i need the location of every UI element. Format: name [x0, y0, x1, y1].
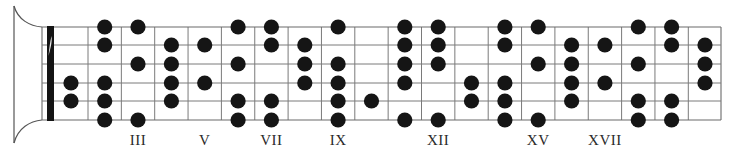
- position-marker-labels: IIIVVIIIXXIIXVXVII: [130, 132, 622, 148]
- scale-note-dot: [331, 75, 346, 90]
- scale-note-dot: [264, 19, 279, 34]
- scale-note-dot: [231, 56, 246, 71]
- scale-note-dot: [431, 112, 446, 127]
- scale-note-dot: [164, 37, 179, 52]
- scale-note-dot: [264, 93, 279, 108]
- scale-note-dot: [431, 37, 446, 52]
- scale-note-dot: [264, 37, 279, 52]
- scale-note-dot: [97, 19, 112, 34]
- fretboard-diagram: IIIVVIIIXXIIXVXVII: [0, 0, 735, 154]
- scale-note-dot: [531, 112, 546, 127]
- scale-note-dot: [564, 75, 579, 90]
- scale-note-dot: [664, 112, 679, 127]
- scale-note-dot: [397, 56, 412, 71]
- scale-note-dot: [130, 19, 145, 34]
- fret-position-label: XV: [527, 132, 550, 148]
- scale-note-dot: [697, 56, 712, 71]
- scale-note-dot: [63, 75, 78, 90]
- scale-note-dot: [331, 112, 346, 127]
- scale-note-dot: [164, 75, 179, 90]
- scale-note-dot: [97, 75, 112, 90]
- scale-note-dot: [497, 37, 512, 52]
- scale-note-dot: [331, 56, 346, 71]
- scale-note-dot: [231, 19, 246, 34]
- scale-note-dot: [497, 112, 512, 127]
- scale-note-dot: [597, 75, 612, 90]
- fret-position-label: V: [199, 132, 210, 148]
- scale-note-dot: [664, 93, 679, 108]
- scale-note-dot: [431, 56, 446, 71]
- scale-note-dot: [397, 75, 412, 90]
- scale-note-dot: [97, 37, 112, 52]
- scale-note-dot: [264, 112, 279, 127]
- scale-note-dot: [664, 19, 679, 34]
- scale-note-dot: [63, 93, 78, 108]
- fret-lines: [42, 27, 721, 120]
- scale-note-dot: [297, 56, 312, 71]
- scale-note-dot: [397, 37, 412, 52]
- scale-note-dot: [231, 112, 246, 127]
- scale-note-dot: [97, 112, 112, 127]
- scale-note-dot: [597, 37, 612, 52]
- scale-note-dot: [97, 93, 112, 108]
- scale-note-dot: [631, 93, 646, 108]
- fret-position-label: XII: [427, 132, 449, 148]
- fret-position-label: IX: [330, 132, 347, 148]
- headstock-top-curve: [14, 6, 42, 27]
- scale-note-dot: [297, 75, 312, 90]
- scale-note-dot: [464, 93, 479, 108]
- scale-note-dot: [531, 19, 546, 34]
- scale-note-dot: [564, 37, 579, 52]
- scale-note-dot: [130, 56, 145, 71]
- scale-note-dot: [297, 37, 312, 52]
- scale-note-dot: [130, 112, 145, 127]
- scale-note-dot: [231, 93, 246, 108]
- headstock-outline: [14, 6, 42, 143]
- scale-note-dot: [397, 112, 412, 127]
- scale-note-dot: [631, 56, 646, 71]
- scale-note-dot: [331, 19, 346, 34]
- scale-note-dot: [664, 37, 679, 52]
- fret-position-label: XVII: [588, 132, 622, 148]
- nut: [47, 26, 54, 121]
- fret-position-label: III: [130, 132, 147, 148]
- scale-note-dot: [164, 56, 179, 71]
- scale-note-dot: [331, 93, 346, 108]
- scale-note-dot: [464, 75, 479, 90]
- headstock-bottom-curve: [14, 120, 42, 143]
- scale-note-dot: [564, 56, 579, 71]
- scale-note-dot: [531, 56, 546, 71]
- scale-note-dot: [631, 112, 646, 127]
- nut-bar: [47, 26, 54, 121]
- scale-note-dot: [497, 75, 512, 90]
- scale-note-dot: [697, 75, 712, 90]
- scale-note-dot: [497, 93, 512, 108]
- scale-note-dot: [197, 75, 212, 90]
- scale-note-dot: [431, 19, 446, 34]
- scale-note-dot: [164, 93, 179, 108]
- scale-note-dot: [631, 19, 646, 34]
- scale-note-dot: [564, 93, 579, 108]
- scale-note-dot: [197, 37, 212, 52]
- string-lines: [42, 27, 721, 120]
- scale-note-dot: [697, 37, 712, 52]
- scale-note-dot: [364, 93, 379, 108]
- fret-position-label: VII: [260, 132, 282, 148]
- scale-note-dot: [397, 19, 412, 34]
- scale-note-dot: [497, 19, 512, 34]
